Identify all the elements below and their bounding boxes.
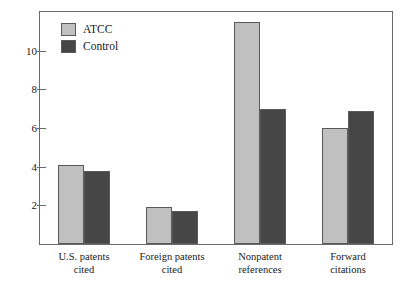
legend-swatch-icon — [61, 23, 76, 36]
bar-control — [348, 111, 374, 244]
bar-control — [172, 211, 198, 244]
x-axis-category-label: Foreign patentscited — [128, 250, 216, 276]
x-axis-category-label: Forwardcitations — [304, 250, 392, 276]
legend-item: Control — [61, 39, 118, 54]
x-axis-category-label-line: Foreign patents — [128, 250, 216, 263]
x-axis-category-label: U.S. patentscited — [40, 250, 128, 276]
y-axis-tick-label: 2 — [15, 200, 37, 211]
x-axis-category-label-line: cited — [40, 263, 128, 276]
x-axis-category-label-line: Forward — [304, 250, 392, 263]
bar-chart: 246810 ATCCControl U.S. patentscitedFore… — [0, 0, 409, 302]
x-axis-category-label: Nonpatentreferences — [216, 250, 304, 276]
bar-group — [322, 12, 374, 244]
bar-atcc — [58, 165, 84, 244]
x-axis-category-label-line: Nonpatent — [216, 250, 304, 263]
bar-atcc — [146, 207, 172, 244]
legend-item-label: Control — [83, 41, 118, 53]
x-axis-category-label-line: references — [216, 263, 304, 276]
bar-atcc — [322, 128, 348, 244]
chart-legend: ATCCControl — [61, 22, 118, 56]
bar-group — [146, 12, 198, 244]
y-axis-tick-label: 8 — [15, 84, 37, 95]
x-axis: U.S. patentscitedForeign patentscitedNon… — [40, 250, 392, 294]
legend-item: ATCC — [61, 22, 118, 37]
x-axis-category-label-line: citations — [304, 263, 392, 276]
bar-control — [260, 109, 286, 244]
y-axis: 246810 — [11, 11, 37, 245]
legend-item-label: ATCC — [83, 24, 112, 36]
bar-control — [84, 171, 110, 244]
y-axis-tick-label: 6 — [15, 123, 37, 134]
x-axis-category-label-line: U.S. patents — [40, 250, 128, 263]
legend-swatch-icon — [61, 40, 76, 53]
y-axis-tick-label: 10 — [15, 45, 37, 56]
x-axis-category-label-line: cited — [128, 263, 216, 276]
bar-group — [234, 12, 286, 244]
bar-atcc — [234, 22, 260, 244]
y-axis-tick-label: 4 — [15, 161, 37, 172]
